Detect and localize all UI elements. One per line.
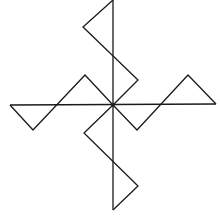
arm-top [83, 0, 138, 105]
diagram-canvas [0, 0, 220, 217]
arm-left [10, 75, 113, 130]
pinwheel-figure [0, 0, 220, 217]
arm-bottom [84, 105, 138, 210]
arm-right [113, 75, 216, 130]
center-point [111, 103, 115, 107]
